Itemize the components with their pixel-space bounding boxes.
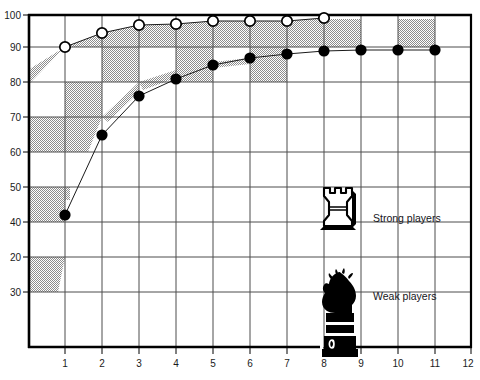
band-seg-7-8 bbox=[250, 47, 287, 82]
band-seg-3-4 bbox=[102, 47, 139, 82]
chess-performance-chart: 100 90 80 70 60 50 40 20 30 1 2 3 4 5 6 … bbox=[0, 0, 480, 380]
chart-background bbox=[0, 0, 480, 380]
band-seg-10-11 bbox=[398, 19, 435, 47]
xtick-8: 8 bbox=[321, 358, 327, 369]
strong-point-8 bbox=[319, 13, 329, 23]
band-seg-8-9 bbox=[324, 19, 361, 47]
ytick-4: 60 bbox=[10, 147, 22, 158]
weak-point-9 bbox=[355, 44, 366, 55]
ytick-7: 20 bbox=[10, 252, 22, 263]
band-seg-1-low bbox=[28, 117, 65, 152]
xtick-3: 3 bbox=[136, 358, 142, 369]
weak-point-3 bbox=[133, 90, 144, 101]
ytick-5: 50 bbox=[10, 182, 22, 193]
ytick-6: 40 bbox=[10, 217, 22, 228]
ytick-0: 100 bbox=[4, 10, 21, 21]
weak-point-10 bbox=[392, 44, 403, 55]
legend-weak-label: Weak players bbox=[373, 290, 436, 302]
xtick-6: 6 bbox=[247, 358, 253, 369]
xtick-11: 11 bbox=[430, 358, 441, 369]
strong-point-2 bbox=[97, 28, 107, 38]
weak-point-4 bbox=[170, 73, 181, 84]
ytick-2: 80 bbox=[10, 77, 22, 88]
weak-point-1 bbox=[59, 209, 70, 220]
weak-point-5 bbox=[207, 59, 218, 70]
weak-point-6 bbox=[244, 52, 255, 63]
xtick-5: 5 bbox=[210, 358, 216, 369]
xtick-4: 4 bbox=[173, 358, 179, 369]
band-seg-2-3-low bbox=[65, 82, 102, 117]
strong-point-4 bbox=[171, 19, 181, 29]
strong-point-1 bbox=[60, 42, 70, 52]
xtick-12: 12 bbox=[462, 358, 474, 369]
strong-point-6 bbox=[245, 16, 255, 26]
weak-point-8 bbox=[318, 45, 329, 56]
weak-point-7 bbox=[281, 48, 292, 59]
ytick-8: 30 bbox=[10, 287, 22, 298]
weak-point-2 bbox=[96, 129, 107, 140]
xtick-9: 9 bbox=[358, 358, 364, 369]
legend-strong-label: Strong players bbox=[373, 212, 441, 224]
xtick-1: 1 bbox=[62, 358, 68, 369]
xtick-10: 10 bbox=[392, 358, 404, 369]
strong-point-3 bbox=[134, 20, 144, 30]
xtick-7: 7 bbox=[284, 358, 290, 369]
xtick-2: 2 bbox=[99, 358, 105, 369]
weak-point-11 bbox=[429, 44, 440, 55]
strong-point-7 bbox=[282, 16, 292, 26]
band-seg-40-50 bbox=[28, 187, 65, 222]
chart-svg: 100 90 80 70 60 50 40 20 30 1 2 3 4 5 6 … bbox=[0, 0, 480, 380]
strong-point-5 bbox=[208, 16, 218, 26]
ytick-3: 70 bbox=[10, 112, 22, 123]
ytick-1: 90 bbox=[10, 42, 22, 53]
band-weak-wedge-d bbox=[65, 187, 70, 200]
